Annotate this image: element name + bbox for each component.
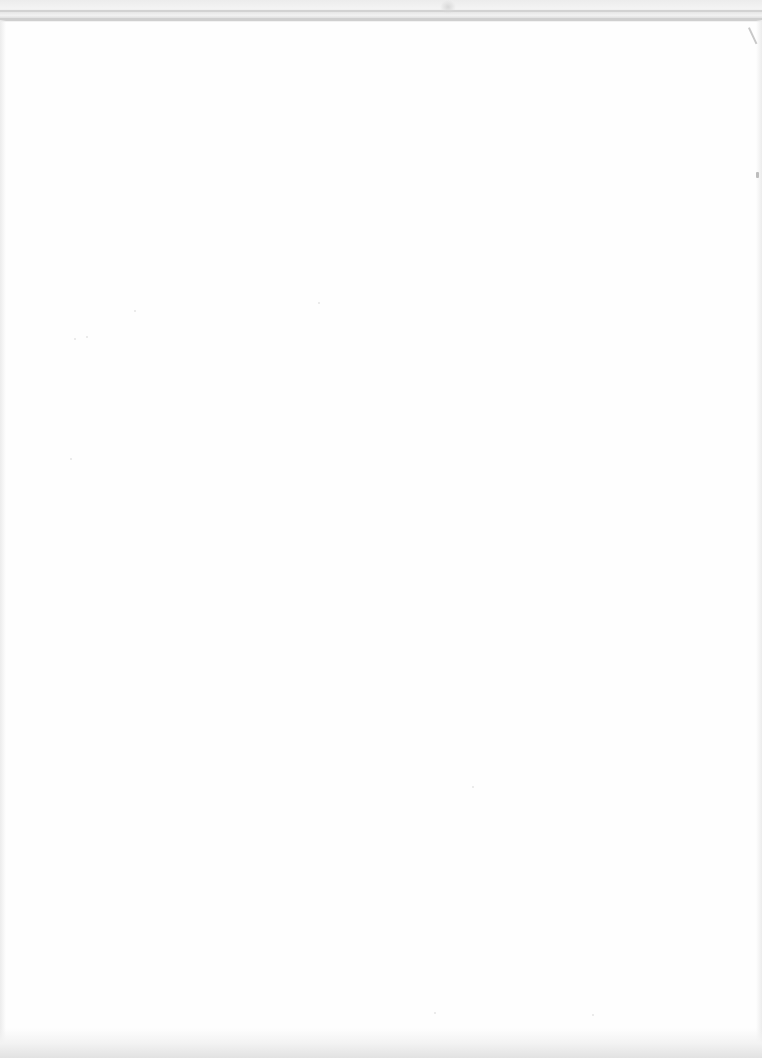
left-edge-shade — [0, 20, 6, 1058]
scan-speck — [318, 302, 320, 304]
bottom-scan-band — [0, 1028, 762, 1058]
top-scan-artifact — [440, 0, 456, 14]
scan-speck — [70, 458, 72, 460]
scan-speck — [592, 1014, 594, 1016]
scan-speck — [472, 786, 474, 788]
top-rule-line — [0, 10, 762, 12]
side-scan-mark — [756, 172, 759, 178]
top-rule-line-lower — [0, 18, 762, 21]
scan-speck — [134, 310, 136, 312]
scan-speck — [74, 338, 76, 340]
blank-page — [0, 0, 762, 1058]
scan-speck — [434, 1012, 436, 1014]
scan-speck — [86, 336, 88, 338]
